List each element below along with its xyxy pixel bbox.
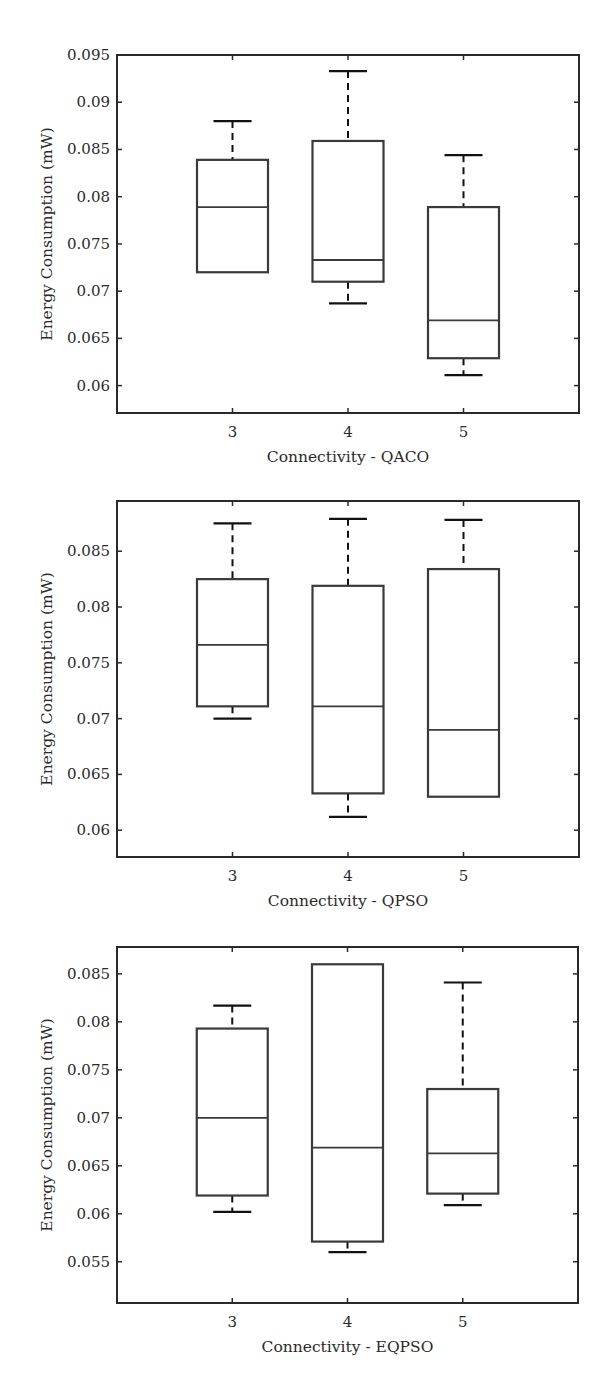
box-3: [197, 523, 268, 718]
x-axis-label: Connectivity - QACO: [267, 448, 429, 466]
x-tick-label: 3: [227, 1313, 237, 1331]
y-tick-label: 0.07: [77, 710, 110, 728]
y-tick-label: 0.08: [77, 1013, 110, 1031]
y-tick-label: 0.095: [67, 46, 110, 64]
y-tick-label: 0.055: [67, 1253, 110, 1271]
iqr-box: [197, 1029, 268, 1196]
box-4: [313, 519, 384, 817]
chart-qaco: 0.060.0650.070.0750.080.0850.090.095345C…: [38, 46, 579, 466]
y-tick-label: 0.07: [77, 1109, 110, 1127]
iqr-box: [197, 160, 268, 272]
iqr-box: [428, 569, 499, 797]
y-tick-label: 0.065: [67, 329, 110, 347]
y-tick-label: 0.085: [67, 965, 110, 983]
y-tick-label: 0.075: [67, 654, 110, 672]
box-5: [428, 155, 499, 375]
y-tick-label: 0.09: [77, 93, 110, 111]
iqr-box: [427, 1089, 498, 1194]
box-3: [197, 1006, 268, 1212]
iqr-box: [197, 579, 268, 706]
box-5: [428, 520, 499, 797]
y-tick-label: 0.065: [67, 765, 110, 783]
y-axis-label: Energy Consumption (mW): [38, 1018, 56, 1231]
y-tick-label: 0.085: [67, 542, 110, 560]
y-tick-label: 0.07: [77, 282, 110, 300]
y-axis-label: Energy Consumption (mW): [38, 572, 56, 785]
chart-eqpso: 0.0550.060.0650.070.0750.080.085345Conne…: [38, 947, 578, 1356]
chart-qpso: 0.060.0650.070.0750.080.085345Connectivi…: [38, 501, 579, 910]
y-tick-label: 0.06: [77, 1205, 110, 1223]
x-tick-label: 4: [343, 423, 353, 441]
box-4: [312, 964, 383, 1252]
box-3: [197, 121, 268, 272]
x-axis-label: Connectivity - EQPSO: [262, 1338, 434, 1356]
figure: 0.060.0650.070.0750.080.0850.090.095345C…: [0, 0, 610, 1373]
y-tick-label: 0.08: [77, 598, 110, 616]
y-tick-label: 0.06: [77, 377, 110, 395]
y-tick-label: 0.08: [77, 188, 110, 206]
x-tick-label: 5: [458, 1313, 468, 1331]
box-4: [313, 71, 384, 303]
y-tick-label: 0.085: [67, 140, 110, 158]
iqr-box: [428, 207, 499, 358]
iqr-box: [313, 586, 384, 794]
y-tick-label: 0.075: [67, 1061, 110, 1079]
x-tick-label: 4: [343, 867, 353, 885]
x-tick-label: 3: [228, 867, 238, 885]
y-axis-label: Energy Consumption (mW): [38, 127, 56, 340]
x-tick-label: 5: [459, 423, 469, 441]
y-tick-label: 0.065: [67, 1157, 110, 1175]
box-plot-figure: 0.060.0650.070.0750.080.0850.090.095345C…: [0, 0, 610, 1373]
y-tick-label: 0.06: [77, 821, 110, 839]
x-axis-label: Connectivity - QPSO: [268, 892, 428, 910]
x-tick-label: 5: [459, 867, 469, 885]
x-tick-label: 4: [343, 1313, 353, 1331]
box-5: [427, 983, 498, 1206]
y-tick-label: 0.075: [67, 235, 110, 253]
iqr-box: [312, 964, 383, 1241]
x-tick-label: 3: [228, 423, 238, 441]
